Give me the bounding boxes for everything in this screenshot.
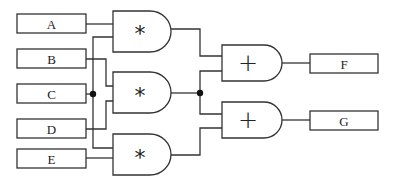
logic-circuit-diagram: A B C D E * * * + + F G bbox=[0, 0, 397, 179]
multiply-symbol: * bbox=[135, 145, 146, 170]
wire-g2-to-g4 bbox=[200, 71, 222, 114]
wire-b-to-g2 bbox=[86, 59, 113, 86]
input-box-d: D bbox=[17, 119, 86, 138]
plus-symbol: + bbox=[238, 49, 258, 77]
wire-g3-to-g5 bbox=[171, 128, 222, 155]
input-box-b: B bbox=[17, 49, 86, 68]
output-box-f: F bbox=[310, 54, 378, 73]
wire-g1-to-g4 bbox=[171, 29, 222, 56]
input-label-e: E bbox=[48, 152, 56, 167]
input-label-a: A bbox=[47, 17, 57, 32]
output-label-f: F bbox=[340, 57, 347, 72]
gate-multiply-3: * bbox=[113, 134, 171, 175]
gate-add-1: + bbox=[222, 45, 282, 81]
input-box-e: E bbox=[17, 149, 86, 168]
plus-symbol: + bbox=[238, 106, 258, 134]
wire-d-to-g2 bbox=[86, 101, 113, 129]
junction-dot-c bbox=[90, 91, 96, 97]
multiply-symbol: * bbox=[135, 83, 146, 108]
output-label-g: G bbox=[339, 114, 348, 129]
input-label-d: D bbox=[47, 122, 56, 137]
input-label-b: B bbox=[47, 52, 56, 67]
multiply-symbol: * bbox=[135, 21, 146, 46]
input-box-c: C bbox=[17, 84, 86, 103]
wire-c-bus-vertical bbox=[93, 37, 113, 148]
input-box-a: A bbox=[17, 14, 86, 33]
input-label-c: C bbox=[47, 87, 56, 102]
gate-add-2: + bbox=[222, 102, 282, 138]
gate-multiply-2: * bbox=[113, 72, 171, 113]
junction-dot-g2 bbox=[197, 90, 203, 96]
output-box-g: G bbox=[310, 111, 378, 130]
gate-multiply-1: * bbox=[113, 11, 171, 52]
